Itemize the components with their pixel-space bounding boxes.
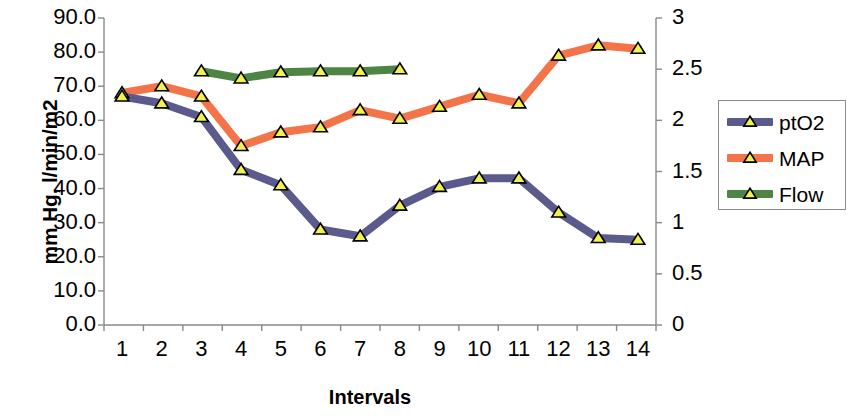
triangle-marker-icon xyxy=(740,112,760,132)
x-axis-tick-label: 14 xyxy=(618,336,658,362)
legend-swatch xyxy=(727,118,773,126)
triangle-marker-icon xyxy=(740,184,760,204)
x-axis-tick-label: 13 xyxy=(578,336,618,362)
legend-label: Flow xyxy=(779,184,823,205)
y-axis-tick-label: 20.0 xyxy=(10,243,96,269)
x-axis-tick-label: 5 xyxy=(261,336,301,362)
x-axis-tick-label: 9 xyxy=(420,336,460,362)
y-axis-tick-label: 10.0 xyxy=(10,277,96,303)
legend-label: MAP xyxy=(779,148,825,169)
y-axis-tick-label: 0.0 xyxy=(10,311,96,337)
secondary-y-axis-tick-label: 1 xyxy=(672,209,732,235)
y-axis-tick-label: 60.0 xyxy=(10,106,96,132)
chart-container: mm Hg, l/min/m2 Intervals 0.010.020.030.… xyxy=(0,0,852,418)
x-axis-tick-label: 4 xyxy=(221,336,261,362)
legend-label: ptO2 xyxy=(779,112,825,133)
x-axis-tick-label: 2 xyxy=(142,336,182,362)
y-axis-tick-label: 80.0 xyxy=(10,38,96,64)
y-axis-tick-label: 40.0 xyxy=(10,175,96,201)
series-line xyxy=(201,69,399,78)
y-axis-tick-label: 50.0 xyxy=(10,140,96,166)
x-axis-tick-label: 11 xyxy=(499,336,539,362)
x-axis-title: Intervals xyxy=(100,386,640,409)
x-axis-tick-label: 7 xyxy=(340,336,380,362)
legend-swatch xyxy=(727,190,773,198)
x-axis-tick-label: 3 xyxy=(181,336,221,362)
legend-item-flow[interactable]: Flow xyxy=(727,179,823,209)
y-axis-tick-label: 90.0 xyxy=(10,4,96,30)
secondary-y-axis-tick-label: 2.5 xyxy=(672,55,732,81)
x-axis-tick-label: 8 xyxy=(380,336,420,362)
x-axis-tick-label: 12 xyxy=(539,336,579,362)
y-axis-tick-label: 30.0 xyxy=(10,209,96,235)
legend-swatch xyxy=(727,154,773,162)
y-axis-tick-label: 70.0 xyxy=(10,72,96,98)
secondary-y-axis-tick-label: 0.5 xyxy=(672,260,732,286)
x-axis-tick-label: 6 xyxy=(300,336,340,362)
x-axis-tick-label: 10 xyxy=(459,336,499,362)
legend-item-pto2[interactable]: ptO2 xyxy=(727,107,825,137)
secondary-y-axis-tick-label: 3 xyxy=(672,4,732,30)
x-axis-tick-label: 1 xyxy=(102,336,142,362)
triangle-marker-icon xyxy=(740,148,760,168)
series-flow xyxy=(201,69,399,78)
secondary-y-axis-tick-label: 0 xyxy=(672,311,732,337)
chart-legend: ptO2MAPFlow xyxy=(718,100,846,210)
legend-item-map[interactable]: MAP xyxy=(727,143,825,173)
